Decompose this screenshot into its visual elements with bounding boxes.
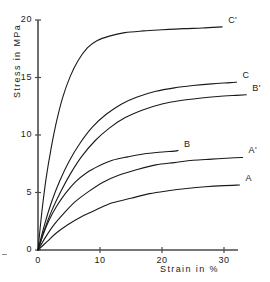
edge-artifact-mark [2,254,7,255]
x-tick-label: 20 [148,256,176,265]
series-label-c-prime: C' [228,16,237,25]
axis-lines [38,20,238,250]
x-tick-label: 0 [24,256,52,265]
series-label-a-prime: A' [249,146,258,155]
y-tick-label: 20 [4,15,32,24]
curve-a [38,185,240,250]
y-tick-label: 10 [4,130,32,139]
series-label-b-prime: B' [252,84,261,93]
plot-area [0,0,270,282]
series-label-c: C [242,71,249,80]
series-label-a: A [246,174,253,183]
y-tick-label: 5 [4,188,32,197]
series-label-b: B [184,140,191,149]
curve-b [38,151,178,250]
curve-b-prime [38,95,246,250]
y-axis-title: Stress in MPa [12,11,22,111]
curve-c-prime [38,27,222,250]
x-tick-label: 10 [86,256,114,265]
stress-strain-chart: Stress in MPa Strain in % 05101520010203… [0,0,270,282]
x-axis-title: Strain in % [160,264,219,274]
data-curves [38,27,246,250]
curve-a-prime [38,157,243,250]
y-tick-label: 15 [4,73,32,82]
y-tick-label: 0 [4,245,32,254]
x-tick-label: 30 [210,256,238,265]
